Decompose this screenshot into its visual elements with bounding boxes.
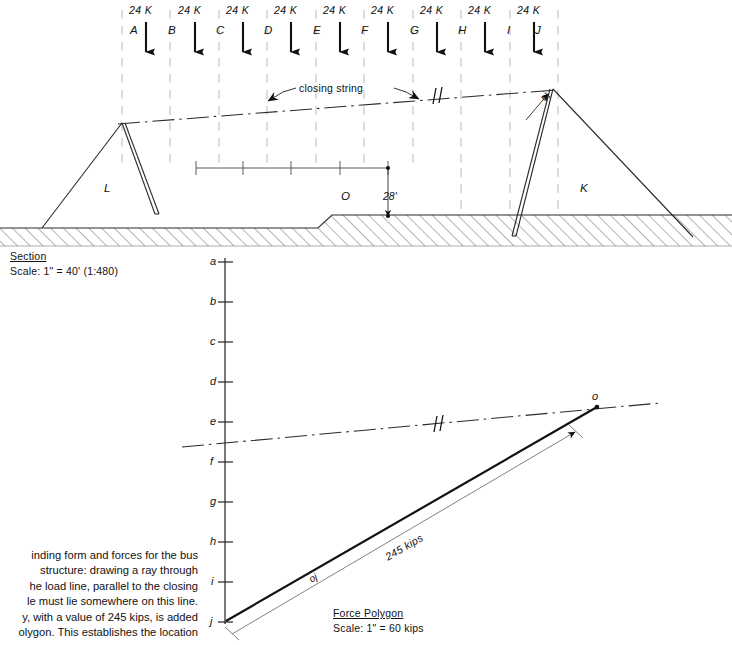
ground-profile (0, 215, 732, 246)
left-mast-structure (42, 123, 159, 228)
section-caption-scale: Scale: 1" = 40' (1:480) (10, 265, 118, 277)
load-value-6: 24 K (371, 4, 394, 16)
bay-letter-i: I (507, 24, 510, 36)
force-polygon-ray-oj (226, 405, 599, 621)
load-value-8: 24 K (468, 4, 491, 16)
bay-letter-d: D (264, 24, 272, 36)
body-text-line-3: he load line, parallel to the closing (0, 579, 198, 594)
bay-letter-f: F (361, 24, 368, 36)
bay-letter-b: B (168, 24, 176, 36)
load-value-1: 24 K (129, 4, 152, 16)
load-value-4: 24 K (274, 4, 297, 16)
body-text-line-2: structure: drawing a ray through (0, 563, 198, 578)
load-line-letter-j: j (210, 615, 212, 627)
load-line-letter-d: d (210, 375, 216, 387)
load-line-letter-i: i (211, 575, 213, 587)
section-caption-title: Section (10, 250, 46, 262)
load-value-2: 24 K (178, 4, 201, 16)
load-line-letter-h: h (210, 535, 216, 547)
body-text-line-4: le must lie somewhere on this line. (0, 594, 198, 609)
force-polygon-load-line (218, 258, 233, 624)
body-text-line-1: inding form and forces for the bus (0, 548, 198, 563)
load-value-9: 24 K (517, 4, 540, 16)
span-dimension-row (196, 161, 388, 175)
bay-letter-e: E (313, 24, 321, 36)
force-polygon-245-dimension (225, 425, 583, 640)
body-text-block: inding form and forces for the bus struc… (0, 548, 198, 640)
bay-letter-j: J (535, 24, 541, 36)
load-line-letter-b: b (210, 295, 216, 307)
body-text-line-6: olygon. This establishes the location (0, 625, 198, 640)
load-value-5: 24 K (323, 4, 346, 16)
applied-load-arrows (146, 22, 534, 52)
load-line-letter-e: e (210, 415, 216, 427)
closing-string-label: closing string (299, 82, 363, 94)
panel-label-left: L (104, 182, 110, 194)
panel-label-right: K (580, 182, 588, 194)
force-polygon-closing-parallel (182, 403, 660, 447)
load-value-7: 24 K (420, 4, 443, 16)
bay-letter-c: C (216, 24, 224, 36)
bay-letter-a: A (130, 24, 138, 36)
force-polygon-caption-title: Force Polygon (333, 607, 403, 619)
bay-letter-h: H (458, 24, 466, 36)
body-text-line-5: y, with a value of 245 kips, is added (0, 610, 198, 625)
pole-label-o: o (592, 390, 598, 402)
height-dimension-label: 28' (383, 190, 397, 202)
force-polygon-caption-scale: Scale: 1" = 60 kips (333, 622, 424, 634)
load-line-letter-c: c (210, 335, 216, 347)
load-line-letter-f: f (210, 455, 213, 467)
load-line-letter-a: a (210, 255, 216, 267)
load-value-3: 24 K (226, 4, 249, 16)
origin-label: O (341, 190, 350, 202)
figure-plate: 24 K 24 K 24 K 24 K 24 K 24 K 24 K 24 K … (0, 0, 732, 645)
bay-letter-g: G (410, 24, 419, 36)
load-line-letter-g: g (210, 495, 216, 507)
